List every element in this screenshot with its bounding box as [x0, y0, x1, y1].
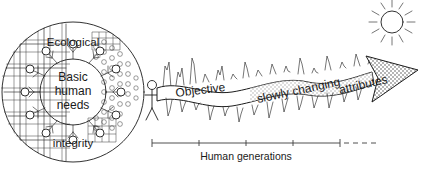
label-human: human	[55, 84, 92, 98]
label-needs: needs	[57, 98, 90, 112]
objective-attributes-band: Objective slowly changing attributes	[157, 54, 418, 122]
figure-canvas: Ecological Basic human needs integrity	[0, 0, 423, 175]
ecological-integrity-circle: Ecological Basic human needs integrity	[1, 22, 144, 163]
circle-texture-bubbles	[88, 32, 138, 142]
sun-icon	[369, 0, 415, 45]
label-ecological: Ecological	[47, 36, 99, 48]
axis-label: Human generations	[200, 150, 292, 162]
label-basic: Basic	[58, 70, 87, 84]
label-integrity: integrity	[53, 137, 94, 149]
diagram-svg: Ecological Basic human needs integrity	[0, 0, 423, 175]
band-label-slowly-changing: slowly changing	[256, 75, 342, 106]
human-generations-axis: Human generations	[152, 139, 376, 162]
